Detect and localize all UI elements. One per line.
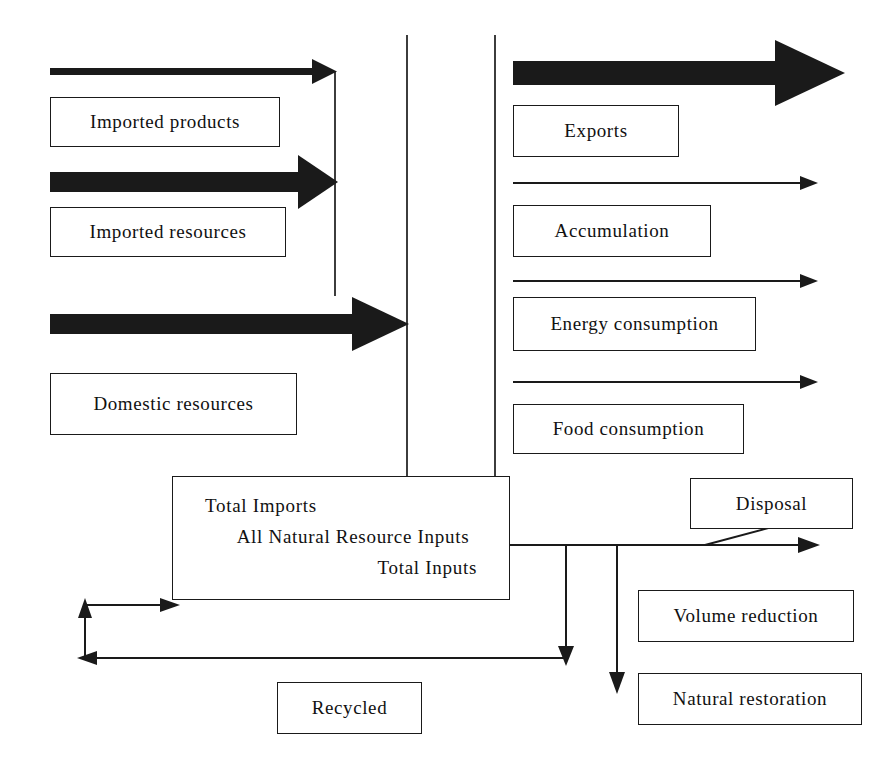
energy-consumption-arrow <box>513 274 818 288</box>
box-exports[interactable]: Exports <box>513 105 679 157</box>
box-imported-products[interactable]: Imported products <box>50 97 280 147</box>
box-label: Disposal <box>736 493 807 515</box>
box-energy-consumption[interactable]: Energy consumption <box>513 297 756 351</box>
imported-resources-arrow <box>50 155 338 209</box>
box-accumulation[interactable]: Accumulation <box>513 205 711 257</box>
center-line-all-natural-resource-inputs: All Natural Resource Inputs <box>191 522 491 553</box>
diagram-canvas: Imported products Imported resources Dom… <box>0 0 894 778</box>
box-imported-resources[interactable]: Imported resources <box>50 207 286 257</box>
box-label: Accumulation <box>555 220 670 242</box>
center-line-total-imports: Total Imports <box>191 491 491 522</box>
natural-restoration-arrow <box>609 545 625 694</box>
box-total-inputs[interactable]: Total Imports All Natural Resource Input… <box>172 476 510 600</box>
box-natural-restoration[interactable]: Natural restoration <box>638 673 862 725</box>
box-domestic-resources[interactable]: Domestic resources <box>50 373 297 435</box>
box-label: Recycled <box>312 697 387 719</box>
food-consumption-arrow <box>513 375 818 389</box>
accumulation-arrow <box>513 176 818 190</box>
center-line-total-inputs: Total Inputs <box>191 553 491 584</box>
box-food-consumption[interactable]: Food consumption <box>513 404 744 454</box>
box-label: Domestic resources <box>93 393 253 415</box>
imported-products-arrow <box>50 59 337 84</box>
volume-reduction-arrow <box>798 537 820 553</box>
box-disposal[interactable]: Disposal <box>690 478 853 529</box>
box-label: Volume reduction <box>674 605 819 627</box>
domestic-resources-arrow <box>50 297 409 351</box>
box-label: Food consumption <box>553 418 705 440</box>
box-volume-reduction[interactable]: Volume reduction <box>638 590 854 642</box>
box-label: Exports <box>564 120 627 142</box>
box-label: Imported products <box>90 111 240 133</box>
box-label: Natural restoration <box>673 688 827 710</box>
exports-arrow <box>513 40 845 106</box>
box-label: Energy consumption <box>550 313 718 335</box>
box-recycled[interactable]: Recycled <box>277 682 422 734</box>
box-label: Imported resources <box>90 221 247 243</box>
